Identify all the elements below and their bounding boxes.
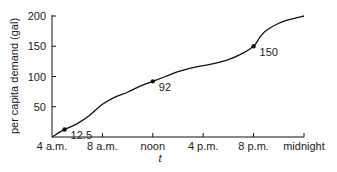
y-tick-label: 100 [28,71,46,83]
x-tick-label: midnight [283,140,325,152]
data-point [151,79,155,83]
axes [52,15,304,137]
x-tick-label: 8 p.m. [238,140,269,152]
data-point [251,44,255,48]
x-axis-label: t [158,152,162,164]
demand-curve [52,16,304,137]
annotated-points: 12.592150 [62,44,278,141]
y-tick-label: 200 [28,10,46,22]
data-label: 150 [260,46,278,58]
y-tick-label: 50 [34,101,46,113]
data-point [62,127,66,131]
x-tick-label: 8 a.m. [87,140,118,152]
data-label: 92 [159,81,171,93]
y-tick-label: 150 [28,40,46,52]
y-axis-label: per capita demand (gal) [8,18,20,134]
data-label: 12.5 [71,129,92,141]
x-tick-label: noon [141,140,165,152]
x-tick-label: 4 a.m. [37,140,68,152]
x-tick-label: 4 p.m. [188,140,219,152]
chart: 50100150200 4 a.m.8 a.m.noon4 p.m.8 p.m.… [0,0,337,172]
